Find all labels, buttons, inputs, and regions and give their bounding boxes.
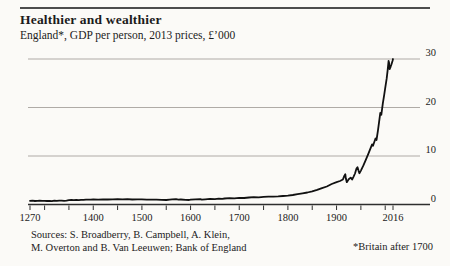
y-tick-label: 20 — [426, 96, 437, 107]
sources-line-1: Sources: S. Broadberry, B. Campbell, A. … — [31, 229, 247, 242]
chart-canvas: 010203012701400150016001700180019002016 — [0, 0, 450, 266]
x-tick-label: 1600 — [180, 212, 201, 223]
x-tick-label: 1400 — [83, 212, 104, 223]
x-tick-label: 1700 — [229, 212, 250, 223]
gdp-line — [30, 59, 393, 201]
y-tick-label: 30 — [426, 47, 437, 58]
x-tick-label: 1800 — [277, 212, 298, 223]
x-tick-label: 1900 — [326, 212, 347, 223]
x-tick-label: 2016 — [383, 212, 404, 223]
sources-line-2: M. Overton and B. Van Leeuwen; Bank of E… — [31, 242, 247, 255]
sources-note: Sources: S. Broadberry, B. Campbell, A. … — [31, 229, 247, 254]
x-tick-label: 1500 — [131, 212, 152, 223]
x-tick-label: 1270 — [20, 212, 41, 223]
footnote: *Britain after 1700 — [353, 241, 433, 252]
y-tick-label: 10 — [426, 144, 437, 155]
y-tick-label: 0 — [431, 193, 436, 204]
